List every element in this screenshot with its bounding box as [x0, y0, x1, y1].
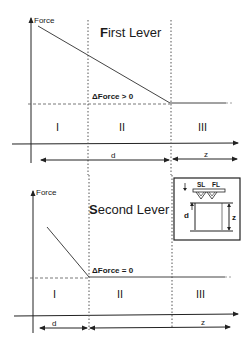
first-lever-panel: Force First Lever ΔForce > 0 I II III d … — [12, 16, 238, 175]
dimension-z-label: z — [204, 150, 208, 159]
region-label-3: III — [198, 121, 207, 133]
inset-label-z: z — [232, 213, 236, 222]
label-sl: SL — [197, 181, 205, 188]
region-label-2: II — [117, 288, 123, 300]
dimension-d-label: d — [52, 319, 56, 328]
lever-force-diagram: Force First Lever ΔForce > 0 I II III d … — [0, 0, 251, 348]
region-label-2: II — [119, 121, 125, 133]
panel-title: Second Lever — [89, 202, 170, 217]
region-label-3: III — [196, 288, 205, 300]
y-axis-label: Force — [34, 16, 55, 25]
inset-label-d: d — [184, 211, 189, 220]
delta-force-label: ΔForce > 0 — [92, 92, 134, 101]
dimension-d-label: d — [111, 151, 115, 160]
lever-bar — [193, 189, 225, 192]
x-axis — [14, 314, 238, 316]
dimension-z-label: z — [201, 318, 205, 327]
label-fl: FL — [212, 181, 220, 188]
region-label-1: I — [53, 288, 56, 300]
panel-title: First Lever — [100, 25, 162, 40]
dimension-z-arrow — [90, 327, 230, 328]
x-axis — [12, 143, 238, 144]
region-label-1: I — [56, 121, 59, 133]
lever-inset: SL FL d z — [174, 178, 240, 240]
y-axis-label: Force — [36, 188, 57, 197]
delta-force-label: ΔForce = 0 — [92, 266, 134, 275]
